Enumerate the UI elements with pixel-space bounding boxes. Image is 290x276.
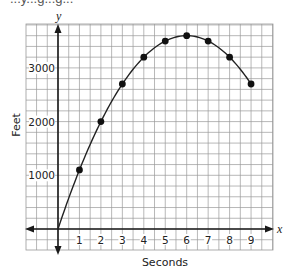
data-point <box>140 54 147 61</box>
x-tick-label: 4 <box>140 234 147 246</box>
height-vs-time-chart: 123456789100020003000 y x Seconds Feet <box>0 0 290 276</box>
x-axis-label: Seconds <box>142 256 188 269</box>
data-point <box>98 118 105 125</box>
data-point <box>205 38 212 45</box>
x-tick-label: 7 <box>205 234 212 246</box>
y-tick-label: 3000 <box>28 62 55 74</box>
data-point <box>183 32 190 39</box>
y-axis-up-arrow-icon <box>55 24 62 33</box>
data-point <box>119 81 126 88</box>
y-axis-label: Feet <box>10 113 23 137</box>
data-point <box>162 38 169 45</box>
y-axis-down-arrow-icon <box>55 246 62 255</box>
x-tick-label: 6 <box>183 234 190 246</box>
axes <box>25 24 274 255</box>
x-axis-letter: x <box>276 222 283 236</box>
x-tick-label: 2 <box>98 234 105 246</box>
x-tick-label: 1 <box>76 234 83 246</box>
y-tick-label: 1000 <box>28 169 55 181</box>
data-point <box>226 54 233 61</box>
x-tick-label: 9 <box>248 234 255 246</box>
data-point <box>248 81 255 88</box>
y-axis-letter: y <box>55 9 62 23</box>
x-tick-label: 5 <box>162 234 169 246</box>
x-tick-label: 8 <box>226 234 233 246</box>
data-point <box>76 167 83 174</box>
y-tick-label: 2000 <box>28 116 55 128</box>
x-tick-label: 3 <box>119 234 126 246</box>
